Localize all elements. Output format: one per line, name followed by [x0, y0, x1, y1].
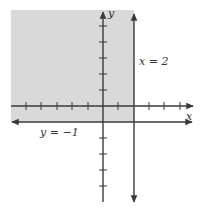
line-x-equals-2: x = 2 — [134, 14, 168, 202]
line-y-equals-neg1-label: y = −1 — [39, 126, 79, 139]
line-y-equals-neg1: y = −1 — [12, 122, 192, 139]
line-x-equals-2-label: x = 2 — [139, 55, 168, 68]
y-axis-label: y — [107, 7, 115, 20]
x-axis-label: x — [186, 110, 193, 123]
coordinate-plane: x y x = 2 y = −1 — [0, 0, 201, 214]
